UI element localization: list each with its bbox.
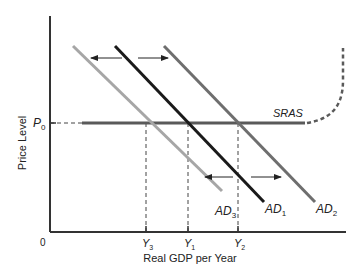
- y1-label: Y1: [184, 237, 195, 251]
- x-axis-label: Real GDP per Year: [143, 252, 237, 264]
- ad-sras-diagram: Price Level P0 SRAS AD3 AD1 AD2 0 Y3 Y1 …: [0, 0, 364, 279]
- ad3-label: AD3: [214, 204, 237, 220]
- sras-dashed-extension: [307, 48, 343, 123]
- y-axis-label: Price Level: [16, 116, 28, 170]
- p0-label: P0: [33, 116, 46, 132]
- origin-label: 0: [40, 237, 46, 248]
- ad1-label: AD1: [264, 202, 287, 218]
- y2-label: Y2: [234, 237, 245, 251]
- ad3-curve: [73, 46, 222, 191]
- y3-label: Y3: [142, 237, 153, 251]
- sras-label: SRAS: [273, 107, 304, 119]
- ad2-label: AD2: [315, 202, 338, 218]
